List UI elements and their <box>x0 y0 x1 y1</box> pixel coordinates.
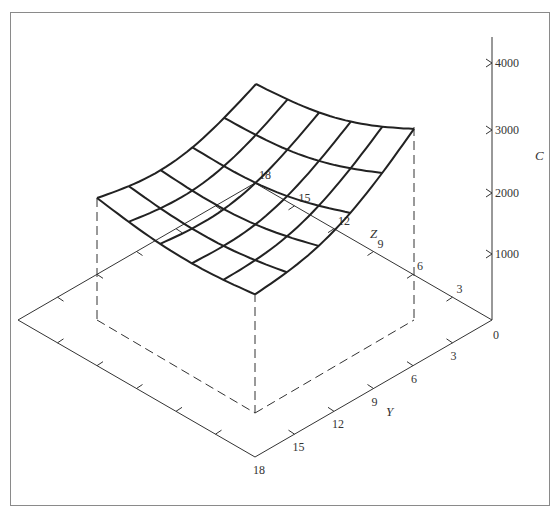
c-axis-label: C <box>535 148 544 163</box>
surface-grid-line <box>192 147 350 213</box>
c-tick-label: 1000 <box>495 247 519 261</box>
y-tick-label: 6 <box>411 372 417 386</box>
y-tick-label: 18 <box>253 463 265 477</box>
z-tick-label: 6 <box>417 259 423 273</box>
surface-mesh <box>97 84 414 294</box>
c-tick-label: 3000 <box>495 123 519 137</box>
c-tick-label: 4000 <box>495 56 519 70</box>
y-tick-label: 3 <box>451 349 457 363</box>
y-axis-label: Y <box>386 404 395 419</box>
surface-grid-line <box>161 170 319 246</box>
y-tick-label: 15 <box>293 440 305 454</box>
origin-label: 0 <box>493 328 499 342</box>
y-tick-label: 12 <box>332 417 344 431</box>
surface-grid-line <box>224 118 382 173</box>
z-axis-label: Z <box>370 226 378 241</box>
surface-grid-line <box>256 84 414 129</box>
c-tick-label: 2000 <box>495 186 519 200</box>
y-tick-label: 9 <box>372 395 378 409</box>
surface-plot: 36912151836912151801000200030004000CZY <box>0 0 559 510</box>
z-tick-label: 3 <box>457 282 463 296</box>
z-tick-label: 9 <box>378 237 384 251</box>
